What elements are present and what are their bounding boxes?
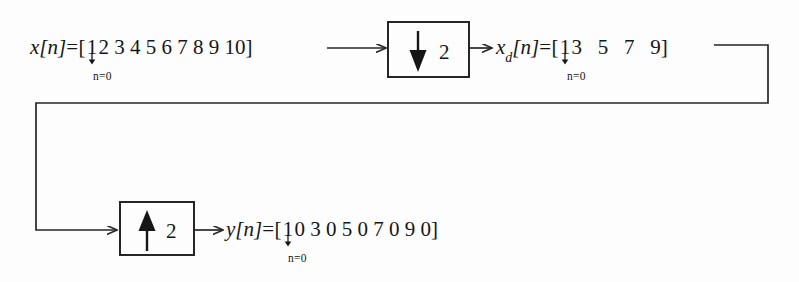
down-arrow-icon xyxy=(406,31,430,73)
output-index-label: n=0 xyxy=(288,252,307,264)
downsampler-block[interactable]: 2 xyxy=(387,21,470,78)
downsampled-index-label: n=0 xyxy=(567,70,586,82)
downsampled-signal-arg: [n] xyxy=(512,35,539,59)
input-open-bracket: [ xyxy=(79,35,86,59)
output-sequence-expression: y[n]=[ 1 0 3 0 5 0 7 0 9 0] xyxy=(226,219,438,240)
output-close-bracket: ] xyxy=(431,217,438,241)
downsampled-signal-subscript: d xyxy=(505,50,512,65)
output-equals-sign: = xyxy=(262,217,274,241)
downsampled-close-bracket: ] xyxy=(661,35,668,59)
upsampler-factor: 2 xyxy=(166,219,177,244)
input-origin-sample: 1 xyxy=(86,37,99,58)
output-open-bracket: [ xyxy=(275,217,282,241)
output-signal-name: y xyxy=(226,217,235,241)
input-signal-arg: [n] xyxy=(39,35,66,59)
input-equals-sign: = xyxy=(66,35,78,59)
origin-marker-icon xyxy=(559,53,571,65)
output-signal-arg: [n] xyxy=(235,217,262,241)
downsampler-factor: 2 xyxy=(439,40,450,65)
downsampled-rest-values: 3 5 7 9 xyxy=(572,35,661,59)
output-rest-values: 0 3 0 5 0 7 0 9 0 xyxy=(295,217,432,241)
downsampled-origin-sample: 1 xyxy=(559,37,572,58)
input-signal-name: x xyxy=(30,35,39,59)
upsampler-block[interactable]: 2 xyxy=(119,201,195,256)
downsampled-sequence-expression: xd[n]=[ 1 3 5 7 9] xyxy=(496,37,668,62)
origin-marker-icon xyxy=(282,235,294,247)
signal-flow-diagram: x[n]=[ 1 2 3 4 5 6 7 8 9 10] n=0 2 xd[n]… xyxy=(0,0,799,282)
origin-marker-icon xyxy=(86,53,98,65)
input-rest-values: 2 3 4 5 6 7 8 9 10 xyxy=(99,35,246,59)
downsampled-equals-sign: = xyxy=(539,35,551,59)
input-close-bracket: ] xyxy=(246,35,253,59)
up-arrow-icon xyxy=(135,210,159,251)
output-origin-sample: 1 xyxy=(282,219,295,240)
input-sequence-expression: x[n]=[ 1 2 3 4 5 6 7 8 9 10] xyxy=(30,37,253,58)
downsampled-open-bracket: [ xyxy=(552,35,559,59)
downsampled-signal-name: x xyxy=(496,35,505,59)
input-index-label: n=0 xyxy=(93,70,112,82)
